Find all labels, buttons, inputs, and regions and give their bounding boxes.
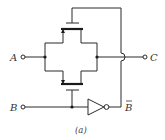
a-label: A xyxy=(9,52,17,63)
inverter-icon xyxy=(88,99,104,115)
transmission-gate-diagram: A C B B (a) xyxy=(0,0,165,140)
upper-source-wire xyxy=(45,29,63,84)
b-bar-feed-wire xyxy=(111,61,121,107)
b-bar-label: B xyxy=(124,102,132,113)
a-terminal xyxy=(21,55,25,59)
b-terminal xyxy=(21,105,25,109)
upper-drain-wire xyxy=(81,29,97,84)
c-terminal xyxy=(143,55,147,59)
inverter-bubble xyxy=(104,105,109,110)
b-label: B xyxy=(9,102,17,113)
a-junction xyxy=(43,55,46,58)
b-junction xyxy=(70,105,73,108)
c-label: C xyxy=(150,52,158,63)
caption: (a) xyxy=(75,125,87,135)
